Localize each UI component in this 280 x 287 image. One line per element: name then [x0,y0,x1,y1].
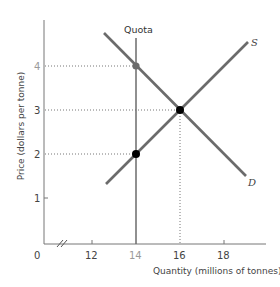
x-tick-label-12: 12 [85,250,98,261]
supply-curve [106,42,248,184]
demand-label: D [247,177,256,188]
x-ticks [92,240,224,244]
quota-label: Quota [124,24,153,35]
x-tick-label-14: 14 [129,250,142,261]
quota-chart: Quota S D 4 3 2 1 0 12 14 16 18 Quantity… [0,0,280,287]
y-axis-title: Price (dollars per tonne) [16,72,26,181]
point-equilibrium [176,106,184,114]
y-tick-label-2: 2 [34,149,40,160]
x-tick-label-18: 18 [217,250,230,261]
reference-lines [45,66,180,244]
y-tick-label-4: 4 [34,61,40,72]
origin-label: 0 [34,250,40,261]
x-tick-label-16: 16 [173,250,186,261]
demand-curve [104,33,246,176]
point-supply-price-at-quota [132,150,140,158]
point-demand-price-at-quota [132,62,139,69]
supply-label: S [251,37,258,48]
y-tick-label-1: 1 [34,193,40,204]
x-axis-title: Quantity (millions of tonnes) [153,266,280,276]
y-tick-label-3: 3 [34,105,40,116]
